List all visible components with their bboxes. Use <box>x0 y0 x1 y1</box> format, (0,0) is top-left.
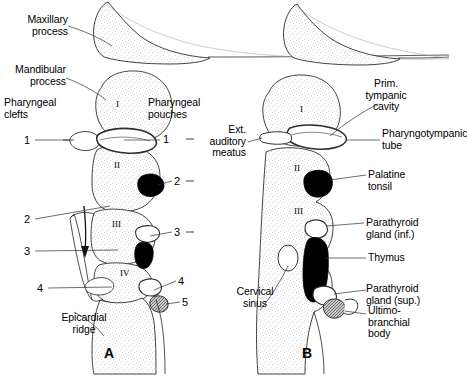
figure-caption: Figure 10.5 Schematic drawings... <box>6 372 135 382</box>
label-pharyngeal-clefts: Pharyngeal clefts <box>4 97 70 120</box>
pouch-number-1: 1 <box>163 133 169 145</box>
arch-numeral-iii-a: III <box>112 219 121 229</box>
pouch-one-shape <box>97 128 157 153</box>
arch-numeral-iii-b: III <box>294 206 303 216</box>
label-ext-auditory-meatus: Ext. auditory meatus <box>180 124 246 159</box>
cleft-number-3: 3 <box>24 245 30 257</box>
leader-parathyroid-sup <box>334 290 366 294</box>
pouch-two-shape <box>138 174 164 197</box>
pouch-number-3: 3 <box>174 226 180 238</box>
cleft-number-4: 4 <box>37 282 43 294</box>
pharyngotympanic-tube-shape <box>287 125 346 149</box>
pouch-number-2: 2 <box>174 175 180 187</box>
label-mandibular-process: Mandibular process <box>0 64 66 87</box>
label-palatine-tonsil: Palatine tonsil <box>368 169 432 192</box>
arch-numeral-iv-b: IV <box>316 272 326 282</box>
arch-numeral-ii-a: II <box>114 160 120 170</box>
epicardial-ridge-shape <box>92 298 156 374</box>
parathyroid-inf-shape <box>305 220 327 238</box>
cleft-one-shape <box>70 132 100 151</box>
label-pharyngeal-pouches: Pharyngeal pouches <box>148 97 220 120</box>
pouch-three-upper-shape <box>136 226 160 243</box>
pouch-four-shape <box>139 279 161 296</box>
cleft-number-2: 2 <box>24 213 30 225</box>
pouch-three-lower-shape <box>135 242 153 268</box>
panel-a-letter: A <box>104 345 114 361</box>
label-parathyroid-gland-inf: Parathyroid gland (inf.) <box>366 217 442 240</box>
pouch-number-4: 4 <box>178 275 184 287</box>
label-parathyroid-gland-sup: Parathyroid gland (sup.) <box>366 283 446 306</box>
palatine-tonsil-shape <box>304 170 333 197</box>
label-prim-tympanic-cavity: Prim. tympanic cavity <box>354 78 418 113</box>
maxillary-process-shape <box>93 2 210 64</box>
label-thymus: Thymus <box>368 252 428 264</box>
arch-numeral-iv-a: IV <box>120 268 130 278</box>
label-epicardial-ridge: Epicardial ridge <box>52 312 116 335</box>
leader-palatine-tonsil <box>330 175 366 180</box>
label-pharyngotympanic-tube: Pharyngotympanic tube <box>382 128 454 151</box>
panel-b-letter: B <box>302 345 312 361</box>
arch-numeral-i-b: I <box>300 104 303 114</box>
migration-arrow <box>84 206 86 252</box>
arch-numeral-ii-b: II <box>294 163 300 173</box>
arch-numeral-i-a: I <box>116 99 119 109</box>
ext-auditory-meatus-shape <box>260 132 292 145</box>
cleft-number-1: 1 <box>24 134 30 146</box>
cervical-sinus-b-shape <box>278 245 298 271</box>
cleft-four-shape <box>85 278 114 295</box>
label-maxillary-process: Maxillary process <box>0 14 68 37</box>
ultimobranchial-body-shape <box>323 299 345 318</box>
pouch-number-5: 5 <box>182 296 188 308</box>
label-ultimobranchial-body: Ultimo- branchial body <box>368 305 430 340</box>
label-cervical-sinus: Cervical sinus <box>224 286 286 309</box>
